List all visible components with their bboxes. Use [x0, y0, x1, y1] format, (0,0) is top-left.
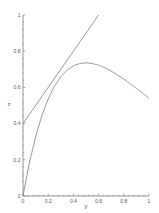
y-tick-label: 0.2 [14, 157, 21, 163]
x-tick-label: 0.6 [95, 198, 102, 204]
y-tick-label: 0.8 [14, 48, 21, 54]
plot-series [23, 15, 149, 196]
y-axis-label: z [8, 101, 11, 107]
x-tick-label: 0 [22, 198, 25, 204]
x-tick-label: 1 [148, 198, 151, 204]
x-tick-label: 0.4 [70, 198, 77, 204]
y-tick-label: 0.6 [14, 84, 21, 90]
y-tick-label: 0.4 [14, 120, 21, 126]
y-tick-label: 0 [18, 193, 21, 199]
x-tick-label: 0.2 [45, 198, 52, 204]
line-chart: 00.20.40.60.8100.20.40.60.81 y z [0, 0, 159, 213]
axes [23, 15, 149, 196]
y-tick-label: 1 [18, 12, 21, 18]
series-line [23, 15, 99, 124]
series-curve [23, 63, 149, 196]
x-tick-label: 0.8 [120, 198, 127, 204]
x-axis-label: y [85, 203, 88, 209]
